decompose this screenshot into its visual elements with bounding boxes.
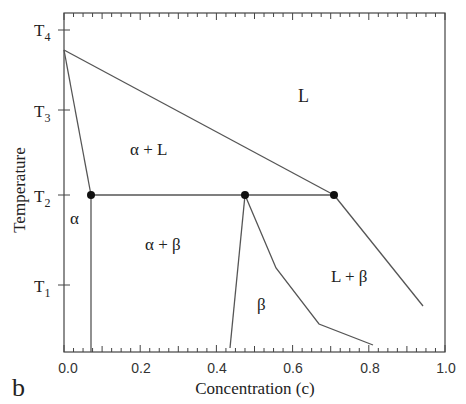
region-label-liquid: L [298,86,309,106]
solvus-beta-left-line [230,195,245,348]
region-label-beta: β [257,295,266,314]
phase-diagram-chart: L α + L α α + β β L + β T4 T3 T2 T1 0.0 … [0,0,466,404]
alpha-eutectic-point [87,191,95,199]
y-tick-t4: T4 [34,21,50,44]
solidus-alpha-line [64,50,91,195]
eutectic-point [330,191,338,199]
y-tick-t3: T3 [34,102,50,125]
x-tick-0.6: 0.6 [283,360,303,376]
x-tick-1.0: 1.0 [436,360,456,376]
liquidus-upper-line [64,50,334,195]
x-axis-title: Concentration (c) [195,379,314,398]
x-tick-0.4: 0.4 [207,360,227,376]
region-label-alpha-beta: α + β [145,235,181,254]
plot-frame [64,13,445,352]
y-axis-title: Temperature [10,147,29,233]
phase-boundaries [64,50,423,352]
y-tick-t1: T1 [34,277,50,300]
beta-eutectic-point [241,191,249,199]
x-tick-0.8: 0.8 [360,360,380,376]
y-tick-t2: T2 [34,187,50,210]
x-tick-0: 0.0 [58,360,78,376]
x-axis-ticks [64,13,445,352]
x-tick-0.2: 0.2 [131,360,151,376]
panel-label: b [12,373,25,402]
y-tick-labels: T4 T3 T2 T1 [34,21,50,300]
x-tick-labels: 0.0 0.2 0.4 0.6 0.8 1.0 [58,360,456,376]
region-label-liquid-beta: L + β [331,267,368,286]
liquidus-beta-line [334,195,423,306]
region-label-alpha: α [70,209,79,228]
region-label-alpha-liquid: α + L [130,140,167,159]
